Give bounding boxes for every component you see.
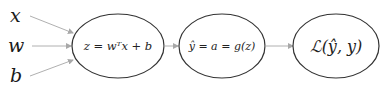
computation-graph: x w b z = wᵀx + b ŷ = a = g(z) ℒ(ŷ, y) <box>0 0 392 86</box>
edge-b-to-linear <box>30 60 73 76</box>
activation-node-label: ŷ = a = g(z) <box>188 40 256 53</box>
edge-x-to-linear <box>30 16 73 33</box>
linear-node-label: z = wᵀx + b <box>83 39 152 53</box>
input-w-label: w <box>8 34 24 56</box>
input-b-label: b <box>10 64 22 86</box>
input-x-label: x <box>10 4 21 26</box>
loss-node-label: ℒ(ŷ, y) <box>310 37 363 56</box>
